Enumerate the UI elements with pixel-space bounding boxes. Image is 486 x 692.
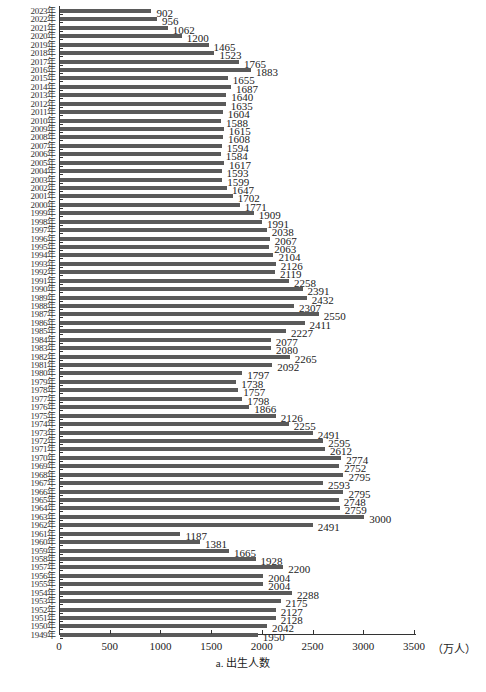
y-tick-label: 1990年	[0, 285, 56, 293]
bar	[60, 169, 222, 173]
x-tick-label: 1000	[149, 640, 171, 652]
y-tick	[60, 545, 63, 546]
bar	[60, 135, 223, 139]
bar	[60, 481, 323, 485]
y-tick	[60, 301, 63, 302]
y-tick	[60, 284, 63, 285]
bar	[60, 549, 229, 553]
y-tick	[60, 528, 63, 529]
y-tick	[60, 157, 63, 158]
bar	[60, 490, 343, 494]
y-tick	[60, 183, 63, 184]
bar	[60, 110, 223, 114]
y-tick-label: 1949年	[0, 631, 56, 639]
y-tick	[60, 570, 63, 571]
y-tick	[60, 242, 63, 243]
x-tick	[313, 630, 314, 634]
bar	[60, 102, 226, 106]
x-tick	[414, 630, 415, 634]
y-tick	[60, 351, 63, 352]
x-tick-label: 2500	[302, 640, 324, 652]
bar	[60, 26, 168, 30]
y-tick	[60, 638, 63, 639]
y-tick	[60, 166, 63, 167]
y-tick	[60, 385, 63, 386]
bar	[60, 422, 289, 426]
y-tick	[60, 393, 63, 394]
bar	[60, 93, 226, 97]
y-tick	[60, 48, 63, 49]
y-tick	[60, 267, 63, 268]
x-tick	[363, 630, 364, 634]
bar	[60, 608, 276, 612]
bar	[60, 60, 239, 64]
y-tick	[60, 225, 63, 226]
y-tick	[60, 376, 63, 377]
chart-caption: a. 出生人数	[0, 654, 486, 670]
y-tick	[60, 233, 63, 234]
bar	[60, 355, 290, 359]
x-tick	[110, 630, 111, 634]
value-label: 2491	[318, 522, 340, 532]
y-tick	[60, 368, 63, 369]
y-tick-label: 1960年	[0, 538, 56, 546]
bar	[60, 178, 222, 182]
bar	[60, 447, 325, 451]
y-tick	[60, 81, 63, 82]
bar	[60, 127, 224, 131]
bar	[60, 338, 271, 342]
y-tick	[60, 250, 63, 251]
y-tick	[60, 503, 63, 504]
bar	[60, 161, 224, 165]
bar	[60, 574, 263, 578]
bar	[60, 34, 182, 38]
x-tick-label: 2000	[251, 640, 273, 652]
bar	[60, 287, 303, 291]
y-tick	[60, 461, 63, 462]
bar	[60, 329, 286, 333]
bar	[60, 76, 228, 80]
y-tick	[60, 317, 63, 318]
bar	[60, 346, 271, 350]
y-tick	[60, 452, 63, 453]
y-tick	[60, 495, 63, 496]
y-tick	[60, 149, 63, 150]
y-tick	[60, 587, 63, 588]
y-tick	[60, 511, 63, 512]
bar	[60, 43, 209, 47]
bar	[60, 380, 236, 384]
bar	[60, 119, 221, 123]
bar	[60, 203, 240, 207]
bar	[60, 582, 263, 586]
bar	[60, 523, 313, 527]
y-tick-label: 1997年	[0, 226, 56, 234]
y-tick	[60, 191, 63, 192]
y-tick	[60, 444, 63, 445]
y-tick-label: 1976年	[0, 403, 56, 411]
y-tick	[60, 629, 63, 630]
x-tick	[160, 630, 161, 634]
y-tick	[60, 22, 63, 23]
value-label: 1883	[256, 67, 278, 77]
bar	[60, 363, 272, 367]
bar	[60, 473, 343, 477]
y-tick	[60, 419, 63, 420]
y-tick	[60, 554, 63, 555]
y-tick	[60, 402, 63, 403]
y-tick-label: 1967年	[0, 479, 56, 487]
bar	[60, 599, 281, 603]
bar	[60, 152, 221, 156]
y-tick	[60, 258, 63, 259]
x-tick-label: 3500	[403, 640, 425, 652]
bar	[60, 591, 292, 595]
y-tick	[60, 199, 63, 200]
y-tick	[60, 124, 63, 125]
bar	[60, 211, 254, 215]
value-label: 2795	[348, 472, 370, 482]
bar	[60, 262, 276, 266]
bar	[60, 624, 267, 628]
bar	[60, 540, 200, 544]
x-tick	[262, 630, 263, 634]
bar	[60, 456, 341, 460]
y-tick	[60, 562, 63, 563]
